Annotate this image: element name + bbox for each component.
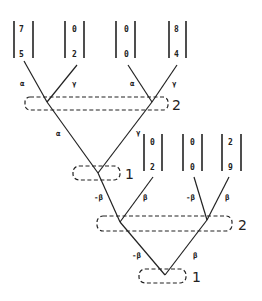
vector-6: 2 9 — [222, 134, 241, 172]
edge-v5-to-n5 — [194, 177, 207, 220]
edge-label-gamma: γ — [72, 79, 77, 88]
vector-bottom-value: 5 — [19, 50, 24, 59]
edge-label-neg-beta: -β — [186, 193, 196, 202]
edge-v4-to-n4 — [120, 177, 153, 222]
edge-label-beta: β — [225, 193, 230, 202]
vector-1: 0 2 — [65, 21, 84, 59]
edge-label-neg-beta: -β — [132, 251, 142, 260]
edge-label-alpha: α — [56, 129, 61, 138]
group-label: 1 — [192, 269, 201, 285]
vector-top-value: 0 — [150, 138, 155, 147]
group-label: 2 — [238, 217, 247, 233]
vector-top-value: 2 — [228, 138, 233, 147]
edge-label-beta: β — [143, 193, 148, 202]
group-box-middle — [73, 166, 120, 180]
vector-bottom-value: 0 — [124, 50, 129, 59]
group-box-top — [25, 97, 168, 110]
vector-3: 8 4 — [169, 21, 186, 59]
vector-top-value: 0 — [124, 25, 129, 34]
group-label: 2 — [172, 97, 181, 113]
group-box-lower — [97, 216, 232, 231]
vector-bottom-value: 9 — [228, 163, 233, 172]
vector-5: 0 0 — [183, 134, 202, 172]
edge-n5-to-root — [165, 220, 207, 275]
edge-label-alpha: α — [130, 79, 135, 88]
edge-v0-to-n1 — [24, 61, 47, 102]
edge-label-gamma: γ — [172, 79, 177, 88]
edge-n4-to-root — [120, 222, 165, 275]
vector-bottom-value: 4 — [174, 50, 179, 59]
vector-bottom-value: 0 — [190, 163, 195, 172]
vector-top-value: 7 — [19, 25, 24, 34]
edge-label-neg-beta: -β — [94, 193, 104, 202]
vector-4: 0 2 — [144, 134, 162, 172]
vector-bottom-value: 2 — [72, 50, 77, 59]
group-label: 1 — [125, 166, 134, 182]
vector-top-value: 8 — [174, 25, 179, 34]
vector-top-value: 0 — [72, 25, 77, 34]
group-box-bottom — [139, 269, 186, 283]
edge-label-beta: β — [193, 251, 198, 260]
edge-label-gamma: γ — [136, 128, 141, 137]
vector-0: 7 5 — [14, 21, 33, 59]
vector-top-value: 0 — [190, 138, 195, 147]
edge-label-alpha: α — [20, 79, 25, 88]
vector-bottom-value: 2 — [150, 163, 155, 172]
vector-2: 0 0 — [116, 21, 135, 59]
tree-diagram: 7 5 0 2 0 0 8 4 0 2 0 0 2 9 — [0, 0, 262, 301]
edge-n1-to-n3 — [47, 102, 98, 173]
